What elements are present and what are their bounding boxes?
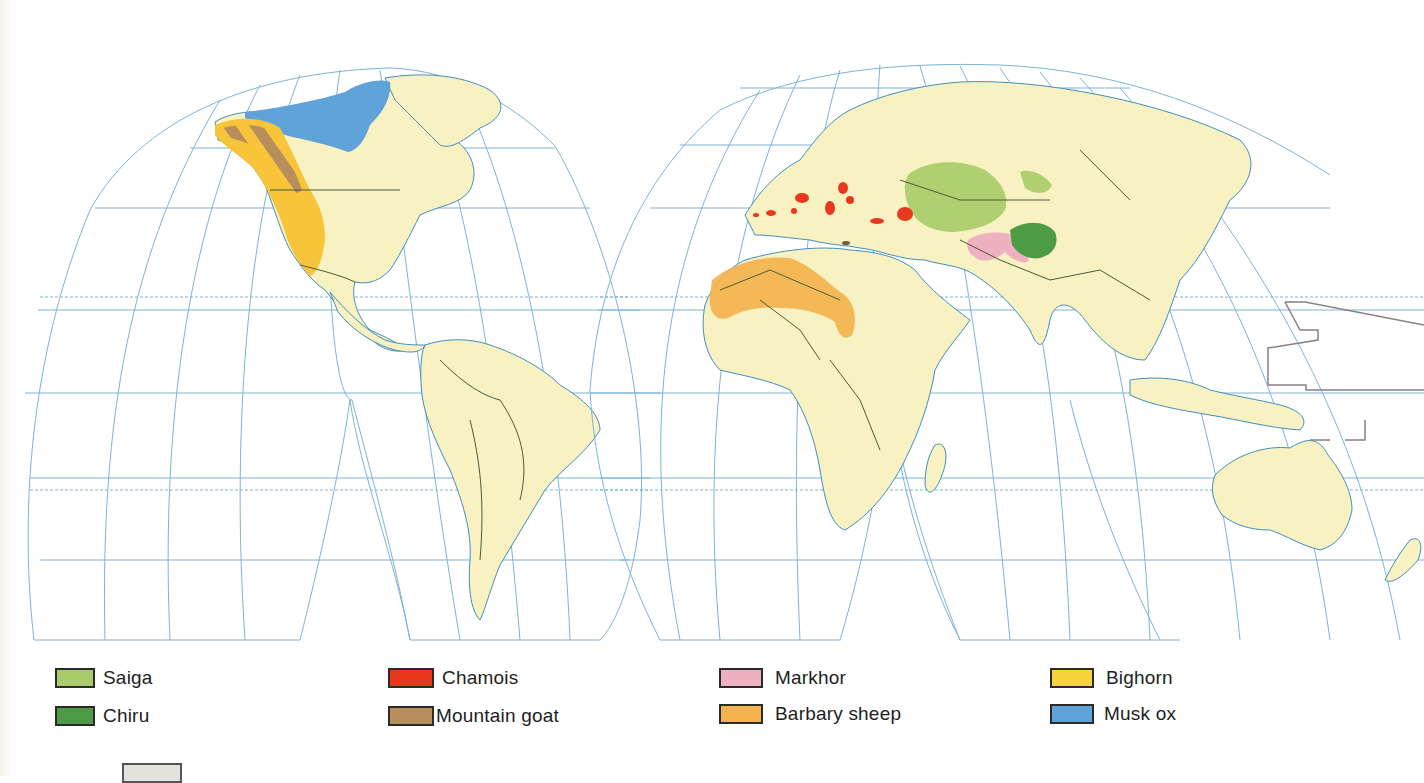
legend-label: Saiga xyxy=(103,667,153,689)
madagascar-landmass xyxy=(925,444,946,492)
map-canvas xyxy=(0,0,1424,650)
legend-item-markhor: Markhor xyxy=(719,666,846,690)
legend-item-chamois: Chamois xyxy=(388,666,518,690)
legend-swatch-chamois xyxy=(388,668,434,688)
legend-item-musk-ox: Musk ox xyxy=(1050,702,1176,726)
australia-landmass xyxy=(1212,441,1352,550)
legend-item-chiru: Chiru xyxy=(55,704,149,728)
americas-lobe xyxy=(25,68,660,640)
legend-label: Barbary sheep xyxy=(775,703,901,725)
southeast-asia-islands xyxy=(1130,378,1304,430)
legend-label: Chamois xyxy=(442,667,518,689)
legend-swatch-markhor xyxy=(719,668,763,688)
legend-item-mountain-goat: Mountain goat xyxy=(388,704,559,728)
legend-swatch-saiga xyxy=(55,668,95,688)
range-mountain-goat-crete xyxy=(842,241,850,245)
legend-swatch-bighorn xyxy=(1050,668,1094,688)
legend-swatch-unlabeled-gray xyxy=(122,763,182,783)
legend-swatch-mountain-goat xyxy=(388,706,434,726)
south-america-landmass xyxy=(421,340,600,620)
legend-item-barbary-sheep: Barbary sheep xyxy=(719,702,901,726)
legend-item-saiga: Saiga xyxy=(55,666,153,690)
legend-swatch-musk-ox xyxy=(1050,704,1094,724)
world-map xyxy=(0,0,1424,650)
legend-label: Chiru xyxy=(103,705,149,727)
eastern-hemisphere-lobe xyxy=(590,64,1424,640)
legend-label: Mountain goat xyxy=(436,705,559,727)
legend-swatch-chiru xyxy=(55,706,95,726)
legend-label: Markhor xyxy=(775,667,846,689)
legend-item-bighorn: Bighorn xyxy=(1050,666,1173,690)
legend-label: Bighorn xyxy=(1106,667,1173,689)
legend-label: Musk ox xyxy=(1104,703,1176,725)
legend-swatch-barbary-sheep xyxy=(719,704,763,724)
